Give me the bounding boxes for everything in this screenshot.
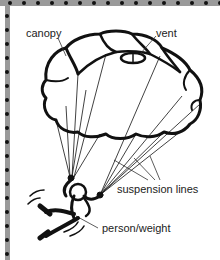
diagram-frame: canopy vent suspension lines person/weig… bbox=[0, 0, 220, 260]
label-canopy: canopy bbox=[26, 27, 61, 39]
canopy-shape bbox=[42, 31, 202, 139]
label-suspension-lines: suspension lines bbox=[117, 183, 198, 195]
person-figure bbox=[28, 175, 103, 238]
parachute-illustration bbox=[0, 0, 220, 260]
label-person-weight: person/weight bbox=[102, 222, 171, 234]
suspension-lines bbox=[56, 54, 200, 195]
label-vent: vent bbox=[156, 27, 177, 39]
vent-shape bbox=[121, 53, 145, 63]
